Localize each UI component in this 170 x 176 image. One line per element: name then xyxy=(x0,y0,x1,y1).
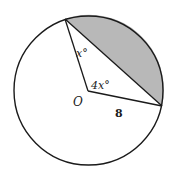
central-angle-label: 4x° xyxy=(90,79,110,92)
angle-x-label: x° xyxy=(76,47,88,60)
circle-diagram: x° 4x° O 8 xyxy=(0,0,170,176)
shaded-segment xyxy=(65,15,164,106)
center-label: O xyxy=(73,95,83,109)
radius-length-label: 8 xyxy=(115,107,123,120)
